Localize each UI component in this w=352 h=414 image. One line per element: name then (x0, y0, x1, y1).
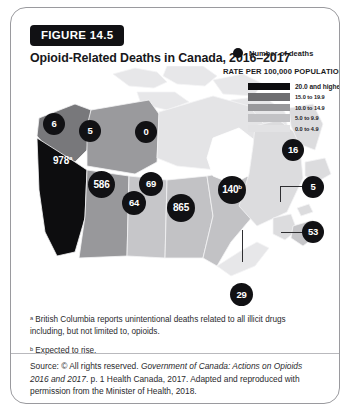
legend-class-label: 5.0 to 9.9 (290, 115, 340, 121)
footnote-a: ᵃ British Columbia reports unintentional… (30, 314, 322, 338)
legend-number-of-deaths: Number of deaths (233, 48, 340, 58)
legend-swatch (248, 104, 290, 112)
region-prince-edward-island (297, 204, 313, 216)
figure-card: FIGURE 14.5 Opioid-Related Deaths in Can… (10, 7, 340, 404)
region-marker-ontario: 865 (167, 194, 195, 222)
region-arctic-islands (113, 68, 167, 88)
region-value-prince-edward-island: 5 (310, 182, 315, 192)
map-legend: Number of deaths RATE PER 100,000 POPULA… (223, 48, 340, 135)
legend-class-label: 15.0 to 19.9 (290, 94, 340, 100)
region-value-yukon: 6 (51, 119, 56, 129)
region-marker-newfoundland-labrador: 16 (282, 139, 304, 161)
region-value-british-columbia: 978a (53, 154, 72, 166)
region-marker-prince-edward-island: 5 (302, 176, 324, 198)
leader-line-new-brunswick (242, 230, 243, 262)
circle-marker-icon (233, 48, 243, 58)
region-marker-yukon: 6 (43, 113, 65, 135)
region-marker-manitoba: 69 (139, 172, 163, 196)
region-value-ontario: 865 (173, 203, 189, 213)
footnote-b: ᵇ Expected to rise. (30, 345, 322, 357)
source-citation: Source: © All rights reserved. Governmen… (30, 360, 322, 398)
source-divider (11, 353, 340, 354)
legend-swatch (248, 114, 290, 122)
region-marker-quebec: 140b (218, 176, 246, 204)
region-value-manitoba: 69 (146, 179, 156, 189)
region-marker-saskatchewan: 64 (122, 191, 146, 215)
legend-class-label: 20.0 and higher (290, 83, 340, 90)
region-marker-nova-scotia: 53 (302, 221, 324, 243)
source-prefix: Source: © All rights reserved. (30, 361, 141, 371)
legend-class-label: 10.0 to 14.9 (290, 105, 340, 111)
region-marker-alberta: 586 (88, 171, 115, 198)
leader-line-pei-vertical (280, 186, 281, 202)
region-value-nunavut: 0 (143, 127, 148, 137)
region-value-newfoundland-labrador: 16 (288, 145, 298, 155)
footnotes: ᵃ British Columbia reports unintentional… (30, 314, 322, 364)
region-value-saskatchewan: 64 (129, 198, 139, 208)
legend-swatch (248, 83, 290, 91)
region-marker-nunavut: 0 (135, 121, 157, 143)
legend-class-list: 20.0 and higher 15.0 to 19.9 10.0 to 14.… (223, 82, 340, 133)
region-value-quebec: 140b (222, 184, 242, 195)
legend-number-of-deaths-label: Number of deaths (249, 49, 313, 58)
legend-class-row: 5.0 to 9.9 (223, 114, 340, 123)
legend-class-row: 20.0 and higher (223, 82, 340, 91)
region-value-nova-scotia: 53 (308, 227, 318, 237)
legend-swatch (248, 93, 290, 101)
region-value-new-brunswick: 29 (236, 290, 246, 300)
legend-class-row: 0.0 to 4.9 (223, 124, 340, 133)
region-arctic-islands-2 (163, 66, 217, 86)
legend-swatch (248, 125, 290, 133)
region-marker-new-brunswick: 29 (230, 283, 253, 306)
region-value-northwest-territories: 5 (87, 126, 92, 136)
legend-class-row: 10.0 to 14.9 (223, 103, 340, 112)
region-value-alberta: 586 (93, 180, 109, 190)
legend-rate-title: RATE PER 100,000 POPULATION (223, 67, 340, 76)
legend-class-label: 0.0 to 4.9 (290, 126, 340, 132)
legend-class-row: 15.0 to 19.9 (223, 93, 340, 102)
region-marker-northwest-territories: 5 (79, 120, 101, 142)
figure-number-badge: FIGURE 14.5 (30, 25, 124, 46)
